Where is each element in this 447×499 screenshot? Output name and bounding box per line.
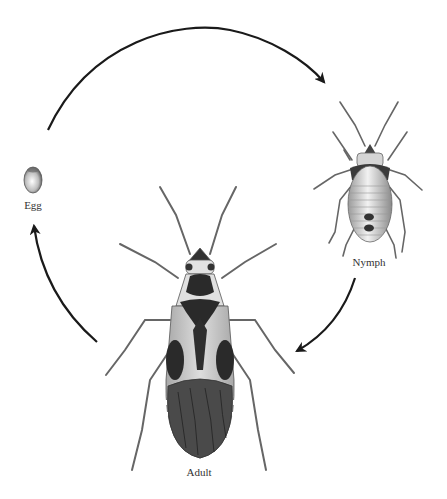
- arrow-nymph-to-adult: [297, 278, 355, 351]
- stage-label-nymph: Nymph: [353, 256, 386, 268]
- stage-label-egg: Egg: [24, 199, 42, 211]
- adult-body: [164, 248, 236, 458]
- life-cycle-diagram: Egg Nymph Adult: [0, 0, 447, 499]
- arrow-egg-to-nymph: [48, 28, 324, 130]
- arrow-adult-to-egg: [34, 226, 97, 342]
- nymph-body: [348, 144, 392, 242]
- stage-label-adult: Adult: [186, 466, 211, 478]
- egg-illustration: [24, 167, 42, 193]
